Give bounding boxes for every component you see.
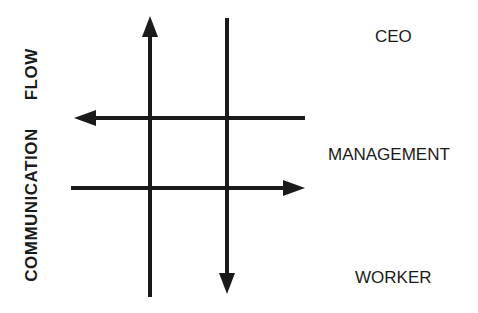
level-worker: WORKER	[355, 268, 432, 288]
level-ceo: CEO	[375, 27, 412, 47]
downward-arrow-icon	[219, 18, 235, 294]
level-management: MANAGEMENT	[328, 145, 450, 165]
rightward-arrow-icon	[71, 180, 305, 196]
leftward-arrow-icon	[74, 110, 305, 126]
upward-arrow-icon	[142, 16, 158, 297]
